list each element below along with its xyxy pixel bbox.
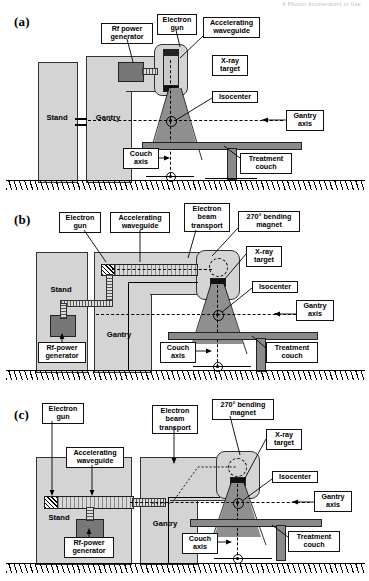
panel-c-stage: (c) [0,385,369,581]
panel-a-leader-lines [0,0,369,196]
label-gantry: Gantry [142,519,188,528]
figure-root: 4 Photon Accelerators in Use (a) [0,0,369,581]
label-gantry: Gantry [88,113,128,122]
panel-b: (b) [0,190,369,386]
panel-b-stage: (b) [0,190,369,386]
panel-c: (c) [0,385,369,581]
panel-a-stage: (a) [0,0,369,196]
label-stand: Stand [38,285,84,294]
panel-a: (a) [0,0,369,196]
label-stand: Stand [40,113,74,122]
label-gantry: Gantry [96,330,142,339]
panel-c-leader-lines [0,385,369,581]
label-stand: Stand [38,513,80,522]
